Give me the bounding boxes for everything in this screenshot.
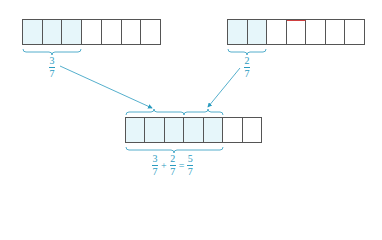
label-two-sevenths: 2 7 [244, 56, 250, 79]
equation-result-five-sevenths: 5 7 [187, 154, 193, 177]
equation-term-three-sevenths: 3 7 [152, 154, 158, 177]
brace-top-bottom-bar [126, 109, 223, 115]
arrow-from-three-sevenths [60, 66, 152, 108]
label-three-sevenths: 3 7 [49, 56, 55, 79]
equals-sign: = [179, 160, 185, 171]
sum-equation: 3 7 + 2 7 = 5 7 [152, 154, 193, 177]
equation-term-two-sevenths: 2 7 [170, 154, 176, 177]
plus-sign: + [161, 160, 167, 171]
arrow-from-two-sevenths [208, 68, 240, 107]
